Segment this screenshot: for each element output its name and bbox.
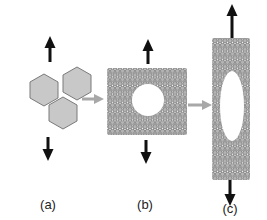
lattice-sheet <box>107 68 187 135</box>
diagram-canvas <box>0 0 267 220</box>
panel-a <box>30 36 91 161</box>
circular-hole <box>132 84 164 116</box>
elliptical-hole <box>220 71 244 141</box>
arrow-right-icon <box>188 100 212 110</box>
panel-label-c: (c) <box>222 201 237 216</box>
grain-hexagon <box>63 67 91 100</box>
panel-label-a: (a) <box>40 197 56 212</box>
panel-b <box>107 39 187 164</box>
load-arrow-down-icon <box>43 137 54 161</box>
load-arrow-up-icon <box>227 4 238 38</box>
hexagon-grains <box>30 67 91 129</box>
load-arrow-up-icon <box>45 36 56 62</box>
grain-hexagon <box>30 74 58 106</box>
load-arrow-up-icon <box>143 39 154 64</box>
panel-c <box>212 4 250 206</box>
load-arrow-down-icon <box>141 140 152 164</box>
panel-label-b: (b) <box>137 197 153 212</box>
grain-hexagon <box>49 97 77 129</box>
lattice-sheet <box>212 38 250 180</box>
